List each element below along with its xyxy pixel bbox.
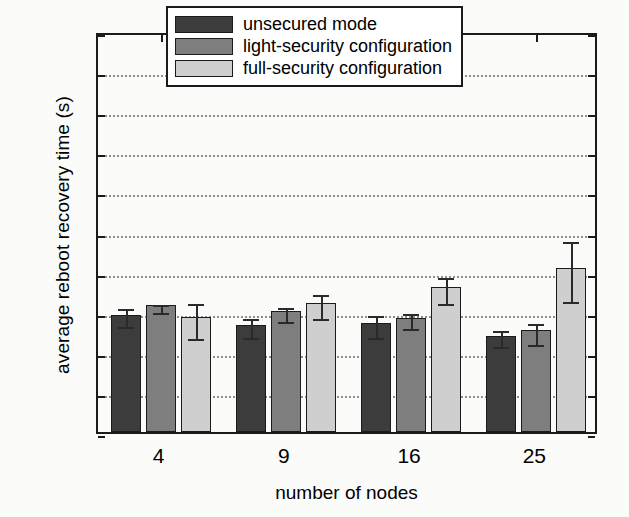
- error-bar-cap: [243, 338, 259, 340]
- bar: [146, 305, 176, 432]
- error-bar-cap: [313, 319, 329, 321]
- y-tick-mark: [98, 236, 105, 238]
- y-tick-mark: [98, 356, 105, 358]
- error-bar: [126, 309, 128, 327]
- y-tick-mark: [588, 276, 595, 278]
- y-tick-mark: [98, 195, 105, 197]
- error-bar: [446, 278, 448, 304]
- x-axis-label: number of nodes: [96, 482, 597, 504]
- error-bar-cap: [153, 305, 169, 307]
- y-tick-mark: [588, 155, 595, 157]
- gridline: [98, 115, 595, 117]
- y-tick-mark: [98, 316, 105, 318]
- error-bar-cap: [403, 314, 419, 316]
- error-bar-cap: [403, 329, 419, 331]
- legend-swatch: [175, 38, 233, 55]
- error-bar-cap: [438, 304, 454, 306]
- gridline: [98, 155, 595, 157]
- y-tick-mark: [588, 115, 595, 117]
- x-tick-label: 25: [494, 444, 574, 468]
- error-bar-cap: [188, 339, 204, 341]
- error-bar: [376, 316, 378, 338]
- error-bar: [571, 242, 573, 302]
- y-tick-mark: [588, 195, 595, 197]
- error-bar-cap: [528, 324, 544, 326]
- legend-item: light-security configuration: [175, 35, 452, 57]
- bar: [396, 318, 426, 432]
- bar: [271, 311, 301, 432]
- error-bar-cap: [188, 304, 204, 306]
- legend-item: unsecured mode: [175, 13, 452, 35]
- chart-figure: average reboot recovery time (s) number …: [0, 0, 629, 517]
- x-tick-mark: [161, 35, 163, 42]
- error-bar: [196, 304, 198, 339]
- legend-label: unsecured mode: [243, 14, 377, 35]
- error-bar-cap: [528, 345, 544, 347]
- bar: [306, 303, 336, 432]
- error-bar-cap: [493, 347, 509, 349]
- error-bar-cap: [243, 319, 259, 321]
- legend-swatch: [175, 60, 233, 77]
- bar: [431, 287, 461, 432]
- error-bar-cap: [438, 278, 454, 280]
- chart-legend: unsecured modelight-security configurati…: [166, 6, 463, 87]
- y-tick-mark: [588, 316, 595, 318]
- x-tick-label: 4: [119, 444, 199, 468]
- y-tick-mark: [98, 276, 105, 278]
- legend-item: full-security configuration: [175, 57, 452, 79]
- error-bar-cap: [493, 331, 509, 333]
- y-tick-mark: [98, 155, 105, 157]
- error-bar-cap: [368, 338, 384, 340]
- bar: [486, 336, 516, 432]
- x-tick-mark: [536, 35, 538, 42]
- y-tick-mark: [98, 35, 105, 37]
- gridline: [98, 195, 595, 197]
- error-bar: [321, 295, 323, 319]
- legend-swatch: [175, 16, 233, 33]
- error-bar-cap: [563, 242, 579, 244]
- y-tick-mark: [588, 396, 595, 398]
- y-axis-label: average reboot recovery time (s): [52, 35, 74, 435]
- error-bar-cap: [563, 302, 579, 304]
- bar: [236, 325, 266, 432]
- y-tick-mark: [98, 396, 105, 398]
- plot-area: [96, 33, 597, 434]
- error-bar: [411, 314, 413, 328]
- y-tick-mark: [588, 75, 595, 77]
- error-bar-cap: [153, 313, 169, 315]
- x-tick-label: 9: [244, 444, 324, 468]
- y-tick-mark: [588, 35, 595, 37]
- y-tick-mark: [588, 356, 595, 358]
- y-tick-mark: [588, 236, 595, 238]
- error-bar-cap: [313, 295, 329, 297]
- gridline: [98, 236, 595, 238]
- gridline: [98, 276, 595, 278]
- error-bar: [501, 331, 503, 347]
- legend-label: full-security configuration: [243, 58, 442, 79]
- error-bar-cap: [278, 308, 294, 310]
- y-tick-mark: [98, 115, 105, 117]
- error-bar: [286, 308, 288, 322]
- error-bar-cap: [278, 322, 294, 324]
- error-bar-cap: [118, 309, 134, 311]
- y-tick-mark: [98, 436, 105, 438]
- legend-label: light-security configuration: [243, 36, 452, 57]
- y-tick-mark: [98, 75, 105, 77]
- bar: [111, 315, 141, 432]
- error-bar: [251, 319, 253, 338]
- error-bar-cap: [368, 316, 384, 318]
- error-bar: [536, 324, 538, 345]
- y-tick-mark: [588, 436, 595, 438]
- x-tick-label: 16: [369, 444, 449, 468]
- error-bar-cap: [118, 327, 134, 329]
